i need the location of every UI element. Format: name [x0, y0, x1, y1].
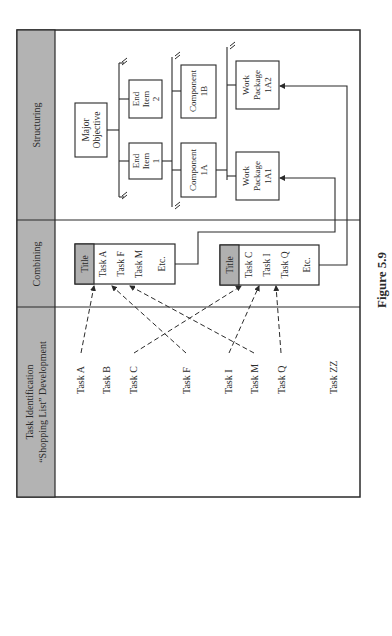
group-item: Etc.	[302, 257, 312, 272]
task-item: Task B	[101, 366, 112, 394]
combining-group-1: Title Task A Task F Task M Etc.	[75, 244, 175, 284]
group-item: Task F	[116, 251, 126, 276]
combining-group-2: Title Task C Task I Task Q Etc.	[220, 245, 319, 285]
header-task-identification-line2: “Shopping List” Development	[37, 341, 48, 463]
figure-caption: Figure 5.9	[374, 251, 389, 308]
end-item-1-label: End	[131, 153, 141, 168]
group-item: Task C	[244, 252, 254, 279]
group-title: Title	[225, 256, 235, 274]
header-structuring: Structuring	[31, 103, 42, 148]
work-package-1a2-label: 1A2	[263, 77, 273, 93]
end-item-2-label: End	[131, 91, 141, 106]
wbs-diagram: Task Identification “Shopping List” Deve…	[0, 0, 392, 636]
task-item: Task I	[223, 369, 234, 394]
major-objective-label: Objective	[92, 112, 102, 149]
component-1a-label: 1A	[199, 164, 209, 176]
end-item-1-label: 1	[151, 159, 161, 164]
group-item: Etc.	[157, 256, 167, 271]
end-item-2-label: 2	[151, 97, 161, 102]
group-item: Task I	[262, 253, 272, 276]
major-objective-box	[75, 103, 107, 157]
header-combining: Combining	[31, 241, 42, 286]
work-package-1a1-label: 1A1	[263, 168, 273, 184]
group-item: Task M	[134, 249, 144, 278]
task-item: Task ZZ	[328, 361, 339, 394]
work-package-1a1-label: Package	[252, 161, 262, 191]
figure-canvas: Task Identification “Shopping List” Deve…	[0, 0, 392, 636]
component-1b-label: 1B	[199, 86, 209, 97]
group-item: Task A	[98, 251, 108, 278]
end-item-2-label: Item	[141, 91, 151, 108]
group-title: Title	[80, 255, 90, 273]
task-item: Task A	[75, 365, 86, 394]
work-package-1a2-label: Package	[252, 70, 262, 100]
task-item: Task Q	[276, 365, 287, 394]
group-item: Task Q	[280, 251, 290, 278]
task-item: Task F	[181, 367, 192, 394]
work-package-1a1-label: Work	[241, 166, 251, 186]
work-package-1a2-label: Work	[241, 75, 251, 95]
task-item: Task C	[128, 366, 139, 394]
major-objective-label: Major	[81, 118, 91, 142]
task-item: Task M	[249, 364, 260, 394]
header-task-identification-line1: Task Identification	[24, 364, 35, 439]
end-item-1-label: Item	[141, 153, 151, 170]
component-1a-label: Component	[188, 149, 198, 191]
component-1b-label: Component	[188, 70, 198, 112]
